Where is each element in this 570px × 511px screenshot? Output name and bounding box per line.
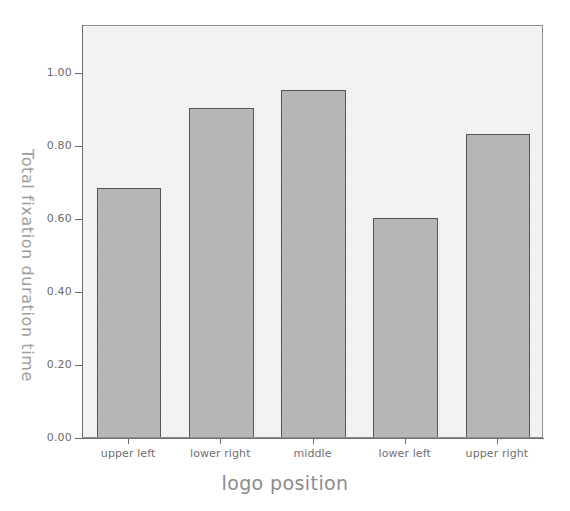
- bar: [97, 188, 162, 437]
- y-axis-tick-label: 0.40: [32, 286, 72, 297]
- y-axis-title: Total fixation duration time: [16, 120, 38, 410]
- y-axis-tick: [75, 219, 82, 220]
- x-axis-tick: [497, 439, 498, 444]
- y-axis-tick-label: 0.80: [32, 140, 72, 151]
- plot-area: [82, 25, 543, 438]
- y-axis-tick: [75, 365, 82, 366]
- y-axis-tick-label: 1.00: [32, 67, 72, 78]
- bar: [189, 108, 254, 437]
- bars-layer: [83, 26, 542, 437]
- y-axis-tick-label: 0.00: [32, 432, 72, 443]
- bar-chart-figure: 0.000.200.400.600.801.00 upper leftlower…: [0, 0, 570, 511]
- y-axis-tick: [75, 146, 82, 147]
- x-axis-title: logo position: [0, 472, 570, 494]
- y-axis-tick-label: 0.20: [32, 359, 72, 370]
- bar: [466, 134, 531, 437]
- x-axis-tick-label: upper left: [101, 448, 156, 459]
- x-axis-tick-label: middle: [293, 448, 331, 459]
- y-axis-tick: [75, 292, 82, 293]
- y-axis-tick: [75, 73, 82, 74]
- x-axis-tick-label: upper right: [466, 448, 529, 459]
- x-axis-tick-label: lower left: [378, 448, 430, 459]
- x-axis-tick: [128, 439, 129, 444]
- x-axis-tick: [220, 439, 221, 444]
- y-axis-tick-label: 0.60: [32, 213, 72, 224]
- x-axis-tick: [313, 439, 314, 444]
- bar: [281, 90, 346, 437]
- y-axis-tick: [75, 438, 82, 439]
- bar: [373, 218, 438, 437]
- x-axis-tick-label: lower right: [190, 448, 251, 459]
- x-axis-tick: [405, 439, 406, 444]
- y-axis-line: [82, 25, 83, 438]
